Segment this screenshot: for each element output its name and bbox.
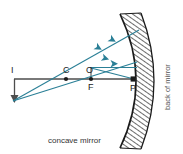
- label-point-O: O: [86, 65, 93, 75]
- caption-concave-mirror: concave mirror: [48, 136, 101, 145]
- ray-upper-arrowhead-near: [93, 43, 103, 53]
- ray-bundle: [13, 30, 139, 101]
- concave-mirror-body: [120, 13, 154, 149]
- label-point-I: I: [11, 65, 14, 75]
- ray-upper-line: [13, 30, 139, 101]
- mirror-hatching: [120, 13, 154, 149]
- label-point-F: F: [88, 82, 94, 92]
- ray-diagram-figure: I C O F P back of mirror concave mirror: [0, 0, 183, 154]
- label-point-C: C: [63, 65, 70, 75]
- ray-horizontal-arrowhead: [111, 60, 119, 68]
- point-marker-C: [64, 77, 68, 81]
- ray-lower-arrowhead: [101, 54, 110, 63]
- point-marker-P: [131, 76, 136, 81]
- point-marker-F: [89, 77, 93, 81]
- ray-diagram-canvas: I C O F P back of mirror concave mirror: [0, 0, 183, 154]
- label-point-P: P: [130, 83, 136, 93]
- label-back-of-mirror: back of mirror: [163, 64, 172, 110]
